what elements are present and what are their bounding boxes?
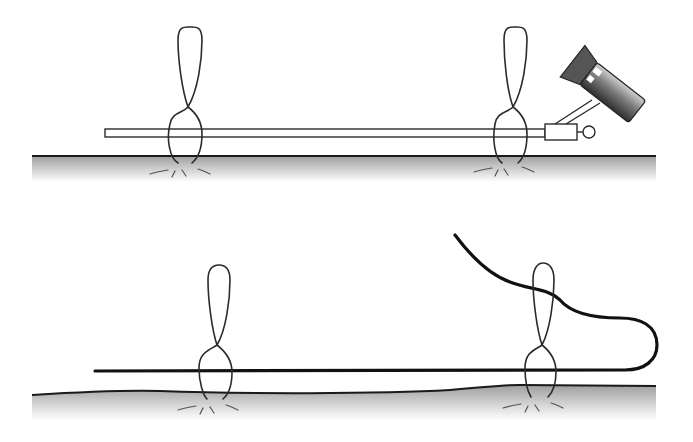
- scope-instrument: [545, 45, 650, 140]
- flexible-wire: [95, 235, 657, 371]
- diagram-svg: [0, 0, 693, 442]
- suture-loop-right-top: [474, 27, 534, 176]
- suture-loop-left-top: [150, 27, 210, 177]
- panel-top: [32, 27, 656, 182]
- panel-bottom: [32, 235, 657, 420]
- tissue-surface-top: [32, 156, 656, 182]
- tissue-surface-bottom: [32, 385, 656, 420]
- surgical-diagram: [0, 0, 693, 442]
- rigid-rod: [105, 129, 545, 137]
